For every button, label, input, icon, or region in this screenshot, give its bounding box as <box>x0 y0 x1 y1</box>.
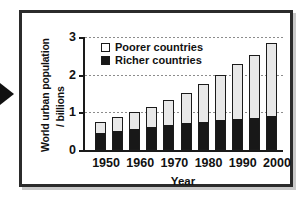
bar-segment-richer-1980 <box>198 122 209 150</box>
bar-segment-richer-1950 <box>95 133 106 150</box>
bar-segment-poorer-1950 <box>95 122 106 133</box>
x-tick-label-1990: 1990 <box>229 157 257 170</box>
x-tick-label-1970: 1970 <box>161 157 189 170</box>
x-tick-label-1960: 1960 <box>126 157 154 170</box>
legend-label-richer: Richer countries <box>115 55 202 66</box>
bar-1950 <box>95 122 106 150</box>
gridline-3 <box>85 37 283 38</box>
bar-segment-richer-1970 <box>163 125 174 150</box>
bar-segment-poorer-1965 <box>146 107 157 128</box>
x-axis-line <box>83 150 283 152</box>
y-tick-label: 0 <box>69 144 76 157</box>
y-tick-label: 2 <box>69 68 76 81</box>
bar-segment-richer-1960 <box>129 129 140 150</box>
bar-segment-richer-1955 <box>112 131 123 150</box>
bar-segment-richer-1965 <box>146 127 157 150</box>
bar-1985 <box>215 75 226 150</box>
bar-segment-poorer-1980 <box>198 84 209 122</box>
bar-1975 <box>181 93 192 150</box>
chart-legend: Poorer countries Richer countries <box>101 42 203 68</box>
filled-square-icon <box>101 56 110 65</box>
bar-segment-richer-1975 <box>181 123 192 150</box>
left-pointer-triangle-icon <box>0 83 14 105</box>
y-tick-mark <box>79 37 84 39</box>
y-axis-title-line-1: World urban population <box>39 38 51 152</box>
bar-1980 <box>198 84 209 150</box>
chart-figure-frame: World urban population / billions 0123 P… <box>19 10 293 187</box>
y-axis-title-line-2: / billions <box>54 86 66 127</box>
x-tick-label-2000: 2000 <box>263 157 291 170</box>
bar-segment-poorer-1960 <box>129 112 140 129</box>
y-tick-mark <box>79 112 84 114</box>
bar-segment-poorer-1990 <box>232 64 243 119</box>
plot-inner: 0123 Poorer countries Richer countries 1… <box>83 37 283 152</box>
open-square-icon <box>101 43 110 52</box>
y-axis-title: World urban population / billions <box>28 21 62 161</box>
legend-label-poorer: Poorer countries <box>115 42 203 53</box>
bar-1995 <box>249 55 260 150</box>
bar-segment-richer-1995 <box>249 118 260 150</box>
bar-1960 <box>129 112 140 150</box>
x-tick-label-1950: 1950 <box>92 157 120 170</box>
bar-segment-poorer-2000 <box>266 43 277 116</box>
x-axis-title: Year <box>83 175 283 187</box>
y-tick-label: 3 <box>69 31 76 44</box>
bar-segment-poorer-1970 <box>163 100 174 126</box>
bar-segment-poorer-1955 <box>112 117 123 131</box>
bar-1990 <box>232 64 243 150</box>
legend-item-richer: Richer countries <box>101 55 203 66</box>
bar-segment-poorer-1985 <box>215 75 226 121</box>
y-tick-mark <box>79 150 84 152</box>
plot-area: 0123 Poorer countries Richer countries 1… <box>83 37 283 152</box>
bar-segment-poorer-1995 <box>249 55 260 118</box>
bar-2000 <box>266 43 277 150</box>
bar-segment-poorer-1975 <box>181 93 192 123</box>
bar-1965 <box>146 107 157 150</box>
x-tick-label-1980: 1980 <box>195 157 223 170</box>
bar-segment-richer-1985 <box>215 120 226 150</box>
legend-item-poorer: Poorer countries <box>101 42 203 53</box>
y-tick-label: 1 <box>69 106 76 119</box>
bar-1970 <box>163 100 174 150</box>
y-axis-line <box>83 37 85 152</box>
bar-segment-richer-1990 <box>232 119 243 150</box>
y-tick-mark <box>79 75 84 77</box>
bar-1955 <box>112 117 123 150</box>
bar-segment-richer-2000 <box>266 116 277 150</box>
